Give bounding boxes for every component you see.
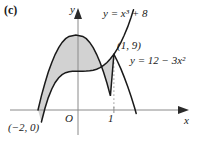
point-label-root: (−2, 0) (8, 122, 39, 133)
x-tick-label-one: 1 (108, 113, 114, 124)
panel-label: (c) (4, 4, 17, 16)
curve-label-parabola: y = 12 − 3x² (130, 55, 185, 66)
x-axis-arrowhead (178, 106, 189, 114)
curve-label-cubic: y = x³ + 8 (103, 8, 147, 19)
shaded-region (38, 35, 114, 122)
figure-area-between-curves: (c) y = x³ + 8 y = 12 − 3x² (1, 9) (−2, … (0, 0, 198, 143)
origin-label: O (65, 113, 73, 124)
point-label-intersection: (1, 9) (117, 40, 141, 51)
y-axis-label: y (70, 4, 75, 15)
y-axis-arrowhead (74, 8, 82, 19)
x-axis-label: x (184, 115, 189, 126)
